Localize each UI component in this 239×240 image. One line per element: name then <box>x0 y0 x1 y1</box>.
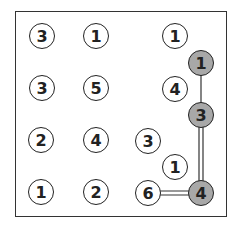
island-node[interactable]: 1 <box>162 23 188 49</box>
island-node[interactable]: 3 <box>29 75 55 101</box>
island-node[interactable]: 1 <box>83 23 109 49</box>
island-node[interactable]: 3 <box>188 102 214 128</box>
island-node[interactable]: 2 <box>28 127 54 153</box>
island-node[interactable]: 3 <box>135 128 161 154</box>
island-node[interactable]: 4 <box>83 127 109 153</box>
island-node[interactable]: 2 <box>83 179 109 205</box>
island-node[interactable]: 1 <box>28 179 54 205</box>
island-node[interactable]: 6 <box>135 180 161 206</box>
island-node[interactable]: 4 <box>188 180 214 206</box>
island-node[interactable]: 5 <box>83 75 109 101</box>
island-node[interactable]: 1 <box>188 50 214 76</box>
island-node[interactable]: 1 <box>162 154 188 180</box>
island-node[interactable]: 3 <box>29 23 55 49</box>
island-node[interactable]: 4 <box>162 76 188 102</box>
